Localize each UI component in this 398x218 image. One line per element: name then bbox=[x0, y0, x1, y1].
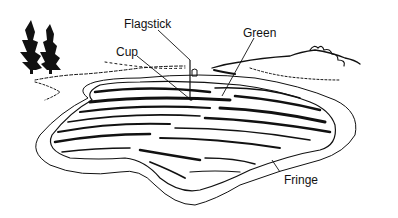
mowing-stripes bbox=[55, 88, 330, 178]
flagstick-icon bbox=[190, 60, 197, 99]
flagstick-label: Flagstick bbox=[124, 18, 171, 30]
leader-lines bbox=[137, 30, 280, 172]
trees-icon bbox=[20, 20, 61, 74]
green-label: Green bbox=[243, 27, 276, 39]
fringe-label: Fringe bbox=[284, 174, 318, 186]
putting-green-diagram bbox=[0, 0, 398, 218]
cup-label: Cup bbox=[116, 46, 138, 58]
